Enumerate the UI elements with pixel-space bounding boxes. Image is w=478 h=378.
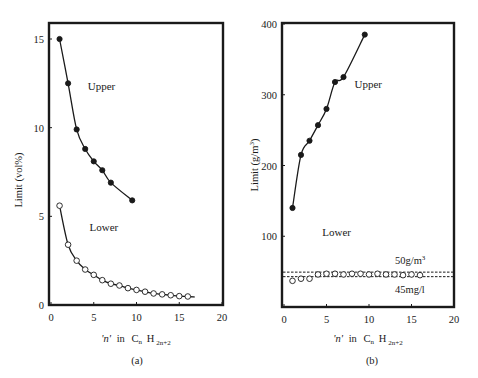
y-axis-label-a: Limit (vol%) — [13, 152, 25, 208]
data-point-lower — [134, 287, 140, 293]
data-point-lower — [307, 276, 313, 282]
caption-b: (b) — [366, 355, 379, 367]
data-point-lower — [383, 272, 389, 278]
x-tick-label: 10 — [131, 312, 142, 323]
data-point-lower — [332, 271, 338, 277]
annotation-lower-b: Lower — [322, 226, 351, 238]
x-axis-label-a: 'n' in Cn H2n+2 — [101, 333, 171, 347]
data-point-lower — [176, 293, 182, 299]
data-point-upper — [341, 74, 346, 79]
x-tick-label: 15 — [406, 314, 417, 325]
series-points-upper-b — [290, 32, 367, 211]
data-point-upper — [108, 180, 113, 185]
annotation-upper-a: Upper — [88, 80, 116, 92]
x-tick-label: 5 — [324, 314, 329, 325]
y-tick-label: 100 — [261, 231, 277, 242]
data-point-lower — [298, 276, 304, 282]
data-point-lower — [125, 285, 131, 291]
data-point-upper — [290, 205, 295, 210]
data-point-upper — [83, 146, 88, 151]
annotation-upper-b: Upper — [355, 78, 383, 90]
data-point-lower — [290, 278, 296, 284]
y-tick-label: 400 — [261, 19, 277, 30]
data-point-upper — [66, 81, 71, 86]
data-point-upper — [91, 159, 96, 164]
caption-a: (a) — [131, 355, 143, 367]
data-point-lower — [375, 271, 381, 277]
data-point-upper — [307, 138, 312, 143]
data-point-lower — [315, 272, 321, 278]
series-curve-upper-a — [60, 39, 133, 200]
data-point-lower — [409, 272, 415, 278]
series-curve-upper-b — [293, 35, 365, 208]
y-tick-label: 10 — [34, 123, 45, 134]
data-point-lower — [159, 292, 165, 298]
data-point-lower — [151, 291, 157, 297]
data-point-lower — [100, 277, 106, 283]
x-tick-label: 0 — [281, 314, 286, 325]
data-point-upper — [298, 152, 303, 157]
data-point-upper — [324, 106, 329, 111]
figure: 05101520051015 Upper Lower Limit (vol%) … — [0, 0, 478, 378]
data-point-lower — [185, 294, 191, 300]
data-point-lower — [142, 289, 148, 295]
annotation-lower-a: Lower — [89, 221, 118, 233]
data-point-lower — [349, 271, 355, 277]
axis-ticks-a: 05101520051015 — [34, 34, 228, 323]
data-point-lower — [417, 272, 423, 278]
data-point-lower — [358, 271, 364, 277]
y-tick-label: 15 — [34, 34, 45, 45]
data-point-lower — [65, 242, 71, 248]
series-curve-lower-a — [60, 206, 195, 297]
data-point-upper — [332, 79, 337, 84]
x-tick-label: 5 — [91, 312, 96, 323]
y-tick-label: 300 — [261, 90, 277, 101]
data-point-lower — [341, 272, 347, 278]
data-point-lower — [57, 203, 63, 209]
data-point-upper — [74, 127, 79, 132]
data-point-upper — [362, 32, 367, 37]
data-point-upper — [100, 168, 105, 173]
data-point-lower — [392, 272, 398, 278]
y-tick-label: 0 — [39, 300, 44, 311]
y-axis-label-b: Limit (g/m3) — [248, 138, 261, 191]
x-tick-label: 15 — [174, 312, 185, 323]
x-tick-label: 10 — [364, 314, 375, 325]
plot-frame-b — [282, 23, 454, 307]
data-point-lower — [82, 267, 88, 273]
y-tick-label: 5 — [39, 211, 44, 222]
data-point-upper — [130, 198, 135, 203]
series-points-upper-a — [57, 36, 135, 203]
y-tick-label: 200 — [261, 161, 277, 172]
data-point-lower — [117, 283, 123, 289]
series-points-lower-b — [290, 271, 423, 284]
reference-label-50g-m3: 50g/m3 — [395, 254, 426, 266]
data-point-lower — [366, 272, 372, 278]
reference-label-45mg-l: 45mg/l — [395, 284, 425, 295]
data-point-upper — [57, 36, 62, 41]
chart-panel-a: 05101520051015 Upper Lower Limit (vol%) … — [13, 23, 227, 367]
x-tick-label: 0 — [48, 312, 53, 323]
chart-panel-b: 05101520100200300400 Upper Lower 50g/m3 … — [248, 19, 459, 367]
data-point-lower — [108, 281, 114, 287]
data-point-lower — [74, 258, 80, 264]
data-point-lower — [324, 271, 330, 277]
data-point-lower — [400, 272, 406, 278]
x-tick-label: 20 — [449, 314, 460, 325]
data-point-lower — [91, 272, 97, 278]
x-axis-label-b: 'n' in Cn H2n+2 — [333, 333, 403, 347]
series-points-lower-a — [57, 203, 191, 299]
data-point-upper — [315, 123, 320, 128]
x-tick-label: 20 — [217, 312, 228, 323]
data-point-lower — [168, 292, 174, 298]
